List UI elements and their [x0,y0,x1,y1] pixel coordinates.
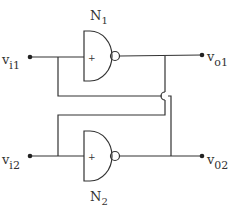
terminal-dot-vi1 [28,55,33,60]
gate-n1-label: N1 [90,8,108,26]
terminal-dot-vo1 [200,53,205,58]
wire-vo1-feedback [58,100,165,156]
circuit-diagram: + + N1 N2 vi1 vi2 vo1 v02 [0,0,238,211]
terminal-label-vi1: vi1 [1,52,20,72]
wire-feedback-to-vo2 [168,96,171,156]
terminal-dot-vo2 [200,154,205,159]
gate-n1-plus: + [88,53,96,63]
wire-n1-vo1 [120,55,202,56]
terminal-dot-vi2 [28,154,33,159]
wire-crossover-hop [161,92,165,100]
terminal-label-vo1: vo1 [206,49,228,69]
terminal-label-vo2: v02 [206,152,228,172]
gate-n2-label: N2 [90,189,108,207]
terminal-label-vi2: vi2 [1,152,20,172]
wire-vi1-feedback [58,57,162,96]
gate-n2-plus: + [88,152,96,162]
